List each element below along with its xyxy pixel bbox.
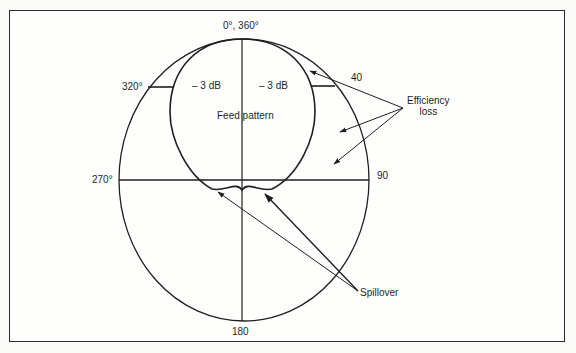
feed-pattern-label: Feed pattern [217,110,274,121]
angle-label-270: 270° [92,174,113,185]
efficiency-loss-line1: Efficiency [407,95,450,106]
spillover-arrow-2 [265,194,358,291]
minus-3db-label-right: – 3 dB [259,80,288,91]
angle-label-40: 40 [351,72,362,83]
efficiency-arrow-3 [334,108,403,164]
minus-3db-label-left: – 3 dB [192,80,221,91]
angle-label-320: 320° [122,81,143,92]
efficiency-loss-line2: loss [407,106,450,117]
polar-diagram [0,0,576,353]
angle-label-180: 180 [232,326,249,337]
angle-label-90: 90 [377,170,388,181]
spillover-arrow-1 [218,192,358,291]
efficiency-arrow-2 [340,108,403,132]
efficiency-loss-label: Efficiency loss [407,95,450,117]
spillover-label: Spillover [360,287,398,298]
angle-label-0-360: 0°, 360° [223,20,259,31]
